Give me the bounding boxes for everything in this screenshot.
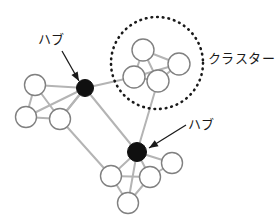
- network-diagram: ハブ ハブ クラスター: [0, 0, 275, 222]
- graph-node: [168, 53, 190, 75]
- annotation-arrow-head: [71, 71, 79, 81]
- annotation-arrow-head: [149, 140, 159, 148]
- graph-edge: [60, 119, 111, 176]
- graph-node: [25, 75, 46, 96]
- label-hub-bottom: ハブ: [188, 118, 215, 131]
- label-cluster: クラスター: [208, 52, 275, 65]
- hub-node: [128, 143, 147, 162]
- nodes-layer: [16, 39, 191, 214]
- graph-node: [147, 70, 169, 92]
- graph-node: [140, 167, 161, 188]
- graph-node: [101, 166, 122, 187]
- label-hub-left: ハブ: [38, 33, 65, 46]
- graph-node: [162, 153, 183, 174]
- graph-node: [132, 39, 154, 61]
- graph-node: [16, 107, 37, 128]
- graph-node: [123, 66, 145, 88]
- hub-node: [77, 80, 94, 97]
- graph-edge: [85, 88, 137, 152]
- graph-node: [50, 109, 71, 130]
- graph-node: [118, 193, 139, 214]
- annotation-arrows-layer: [62, 51, 186, 148]
